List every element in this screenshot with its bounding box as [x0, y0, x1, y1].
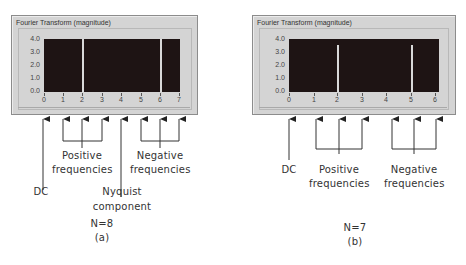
label-positive-a-2: frequencies [52, 164, 112, 175]
label-negative-b-1: Negative [384, 164, 444, 175]
label-negative-b-2: frequencies [384, 178, 444, 189]
label-positive-a-1: Positive [52, 150, 112, 161]
label-negative-a-2: frequencies [130, 164, 190, 175]
n-label-b: N=7 [335, 222, 375, 233]
annotation-arrows [0, 0, 466, 265]
label-nyquist-a-1: Nyquist [92, 186, 152, 197]
label-dc-a: DC [26, 186, 56, 197]
caption-a: (a) [82, 232, 122, 243]
caption-b: (b) [335, 236, 375, 247]
n-label-a: N=8 [82, 218, 122, 229]
label-dc-b: DC [274, 164, 304, 175]
label-positive-b-1: Positive [309, 164, 369, 175]
label-nyquist-a-2: component [87, 201, 157, 212]
label-negative-a-1: Negative [130, 150, 190, 161]
label-positive-b-2: frequencies [309, 178, 369, 189]
